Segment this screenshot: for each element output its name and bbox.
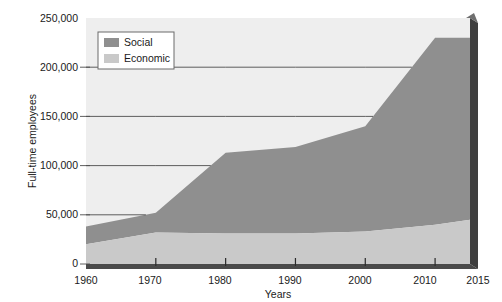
x-tick-label: 1990 bbox=[278, 274, 302, 286]
y-tick-label: 150,000 bbox=[40, 110, 78, 122]
y-tick-label: 0 bbox=[72, 257, 78, 269]
y-tick-label: 250,000 bbox=[40, 12, 78, 24]
x-tick-label: 2000 bbox=[348, 274, 372, 286]
x-tick-labels: 1960 1970 1980 1990 2000 2010 2015 bbox=[74, 274, 490, 286]
legend-label-economic: Economic bbox=[124, 52, 170, 64]
legend-label-social: Social bbox=[124, 36, 153, 48]
x-tick-label: 1970 bbox=[138, 274, 162, 286]
area-chart: 250,000 200,000 150,000 100,000 50,000 0… bbox=[0, 0, 502, 302]
x-tick-label: 1960 bbox=[74, 274, 98, 286]
legend-swatch-social bbox=[104, 38, 119, 47]
y-tick-label: 50,000 bbox=[46, 208, 78, 220]
x-axis-bar-front bbox=[86, 264, 470, 269]
x-tick-label: 1980 bbox=[208, 274, 232, 286]
y-tick-labels: 250,000 200,000 150,000 100,000 50,000 0 bbox=[40, 12, 78, 269]
x-tick-label: 2015 bbox=[466, 274, 490, 286]
chart-container: 250,000 200,000 150,000 100,000 50,000 0… bbox=[0, 0, 502, 302]
x-axis-title: Years bbox=[265, 288, 291, 300]
legend-swatch-economic bbox=[104, 54, 119, 63]
x-tick-label: 2010 bbox=[413, 274, 437, 286]
legend: Social Economic bbox=[98, 32, 174, 69]
y-tick-label: 100,000 bbox=[40, 159, 78, 171]
y-tick-label: 200,000 bbox=[40, 61, 78, 73]
y-axis-title: Full-time employees bbox=[26, 94, 38, 188]
right-side-shadow bbox=[470, 18, 478, 269]
